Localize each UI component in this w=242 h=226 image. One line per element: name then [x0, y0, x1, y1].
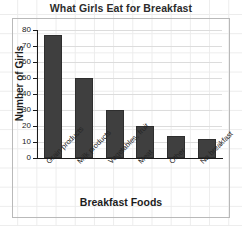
y-axis-tick-mark	[33, 158, 37, 159]
y-axis-tick-label: 0	[1, 154, 31, 162]
y-axis-tick-mark	[33, 62, 37, 63]
y-axis-tick-mark	[33, 110, 37, 111]
x-axis-title: Breakfast Foods	[12, 196, 230, 208]
chart-title: What Girls Eat for Breakfast	[0, 2, 242, 14]
y-axis-tick-mark	[33, 94, 37, 95]
y-axis-tick-label: 10	[1, 138, 31, 146]
y-axis-tick-mark	[33, 46, 37, 47]
y-axis-tick-mark	[33, 78, 37, 79]
y-axis-title: Number of Girls	[14, 29, 25, 139]
chart-figure: What Girls Eat for Breakfast 01020304050…	[0, 0, 242, 226]
y-axis-tick-mark	[33, 30, 37, 31]
y-axis-tick-mark	[33, 142, 37, 143]
bar	[44, 35, 62, 158]
x-axis-line	[37, 158, 223, 159]
y-axis-tick-mark	[33, 126, 37, 127]
